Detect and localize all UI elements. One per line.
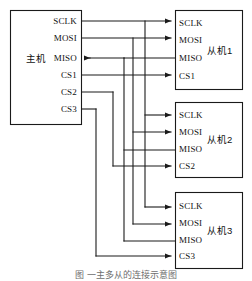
master-pin-miso-label: MISO bbox=[54, 53, 78, 63]
slave1-block: 从机1 SCLK MOSI MISO CS1 bbox=[176, 11, 243, 90]
slave2-pin-miso-label: MISO bbox=[179, 144, 203, 154]
slave2-block-label: 从机2 bbox=[207, 134, 232, 145]
slave2-pin-mosi-label: MOSI bbox=[179, 127, 202, 137]
master-pin-mosi-label: MOSI bbox=[54, 33, 77, 43]
slave3-pin-mosi-label: MOSI bbox=[179, 218, 202, 228]
miso-bus-wire bbox=[86, 58, 176, 241]
master-pin-cs3-label: CS3 bbox=[61, 104, 77, 114]
slave1-pin-sclk-label: SCLK bbox=[179, 18, 203, 28]
mosi-bus-wire bbox=[82, 38, 172, 224]
slave1-block-label: 从机1 bbox=[207, 45, 232, 56]
figure-caption: 图 一主多从的连接示意图 bbox=[0, 269, 252, 281]
master-pin-sclk-label: SCLK bbox=[53, 16, 77, 26]
cs2-wire bbox=[82, 92, 172, 166]
master-block: 主机 SCLK MOSI MISO CS1 CS2 CS3 bbox=[11, 11, 82, 125]
slave2-pin-sclk-label: SCLK bbox=[179, 110, 203, 120]
slave2-pin-cs-label: CS2 bbox=[179, 161, 195, 171]
slave3-pin-cs-label: CS3 bbox=[179, 251, 195, 261]
cs3-wire bbox=[82, 109, 172, 256]
master-pin-cs2-label: CS2 bbox=[61, 87, 77, 97]
diagram-canvas: 主机 SCLK MOSI MISO CS1 CS2 CS3 从机1 SCLK M… bbox=[0, 0, 252, 281]
slave3-pin-miso-label: MISO bbox=[179, 235, 203, 245]
spi-topology-diagram: 主机 SCLK MOSI MISO CS1 CS2 CS3 从机1 SCLK M… bbox=[0, 0, 252, 281]
master-pin-cs1-label: CS1 bbox=[61, 70, 77, 80]
slave1-pin-cs-label: CS1 bbox=[179, 71, 195, 81]
slave3-block-label: 从机3 bbox=[207, 225, 232, 236]
slave2-block: 从机2 SCLK MOSI MISO CS2 bbox=[176, 103, 243, 178]
slave3-pin-sclk-label: SCLK bbox=[179, 201, 203, 211]
sclk-bus-wire bbox=[82, 21, 172, 207]
slave3-block: 从机3 SCLK MOSI MISO CS3 bbox=[176, 193, 243, 269]
master-block-label: 主机 bbox=[26, 53, 46, 64]
slave1-pin-mosi-label: MOSI bbox=[179, 35, 202, 45]
slave1-pin-miso-label: MISO bbox=[179, 53, 203, 63]
